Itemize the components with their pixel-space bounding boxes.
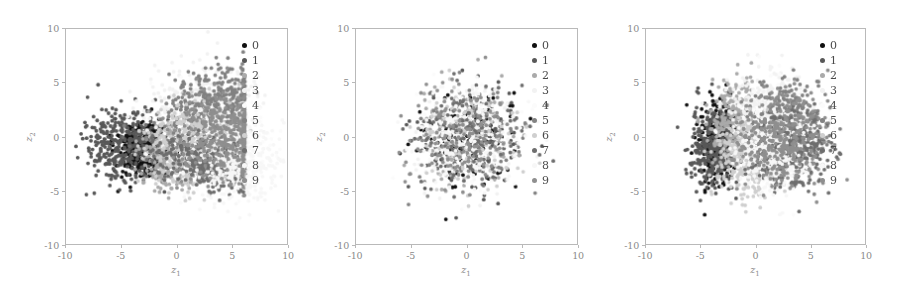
x-tickmark (355, 245, 356, 248)
legend-item-5[interactable]: 5 (820, 113, 837, 128)
y-tick-label: 5 (323, 77, 349, 88)
legend-item-5[interactable]: 5 (242, 113, 259, 128)
x-axis-label-sub: 1 (176, 270, 180, 278)
legend-item-2[interactable]: 2 (820, 68, 837, 83)
legend-item-0[interactable]: 0 (242, 38, 259, 53)
x-tickmark (522, 245, 523, 248)
x-tickmark (65, 245, 66, 248)
legend-item-4[interactable]: 4 (820, 98, 837, 113)
legend-item-6[interactable]: 6 (242, 128, 259, 143)
legend-item-4[interactable]: 4 (532, 98, 549, 113)
legend-label: 6 (830, 130, 837, 141)
legend-item-0[interactable]: 0 (532, 38, 549, 53)
x-tick-label: 10 (282, 250, 294, 261)
y-tick-label: 5 (33, 77, 59, 88)
y-tick-label: -5 (323, 185, 349, 196)
legend-label: 4 (830, 100, 837, 111)
y-axis-label-text: z (603, 136, 614, 141)
legend-marker-icon (242, 133, 247, 138)
legend-marker-icon (532, 103, 537, 108)
legend-marker-icon (820, 103, 825, 108)
x-tick-label: -5 (116, 250, 125, 261)
legend-label: 2 (542, 70, 549, 81)
x-tick-label: -5 (406, 250, 415, 261)
x-tickmark (288, 245, 289, 248)
legend-marker-icon (242, 88, 247, 93)
y-axis-label: z2 (313, 132, 327, 141)
legend-label: 1 (542, 55, 549, 66)
y-tickmark (62, 245, 65, 246)
legend-item-8[interactable]: 8 (242, 158, 259, 173)
x-tickmark (700, 245, 701, 248)
y-tickmark (642, 137, 645, 138)
legend-item-8[interactable]: 8 (820, 158, 837, 173)
legend-item-3[interactable]: 3 (532, 83, 549, 98)
legend-label: 3 (542, 85, 549, 96)
legend-item-3[interactable]: 3 (242, 83, 259, 98)
y-tick-label: -5 (613, 185, 639, 196)
x-tickmark (411, 245, 412, 248)
y-tickmark (62, 191, 65, 192)
legend-item-6[interactable]: 6 (532, 128, 549, 143)
x-tickmark (121, 245, 122, 248)
y-tickmark (352, 28, 355, 29)
legend-marker-icon (532, 73, 537, 78)
y-tickmark (352, 137, 355, 138)
legend-label: 6 (252, 130, 259, 141)
x-tick-label: 0 (464, 250, 470, 261)
legend-marker-icon (532, 88, 537, 93)
legend-label: 5 (252, 115, 259, 126)
legend-item-7[interactable]: 7 (242, 143, 259, 158)
legend-marker-icon (820, 118, 825, 123)
x-tickmark (467, 245, 468, 248)
legend-item-1[interactable]: 1 (242, 53, 259, 68)
y-tick-label: 5 (613, 77, 639, 88)
x-tick-label: 0 (174, 250, 180, 261)
x-tick-label: -10 (638, 250, 653, 261)
legend-item-3[interactable]: 3 (820, 83, 837, 98)
legend-item-2[interactable]: 2 (242, 68, 259, 83)
latent-space-scatter-figure: -10-505101050-5-10z1z20123456789-10-5051… (0, 0, 902, 297)
legend-marker-icon (820, 178, 825, 183)
y-tick-label: 10 (33, 23, 59, 34)
legend-item-9[interactable]: 9 (820, 173, 837, 188)
legend-marker-icon (820, 133, 825, 138)
x-tickmark (866, 245, 867, 248)
y-tick-label: 10 (613, 23, 639, 34)
y-tick-label: -10 (323, 240, 349, 251)
legend-item-4[interactable]: 4 (242, 98, 259, 113)
legend-1: 0123456789 (242, 38, 259, 188)
legend-label: 1 (252, 55, 259, 66)
y-tick-label: -10 (613, 240, 639, 251)
legend-item-7[interactable]: 7 (532, 143, 549, 158)
legend-label: 5 (830, 115, 837, 126)
y-tickmark (62, 137, 65, 138)
legend-item-1[interactable]: 1 (820, 53, 837, 68)
legend-item-2[interactable]: 2 (532, 68, 549, 83)
x-tick-label: 5 (808, 250, 814, 261)
legend-item-8[interactable]: 8 (532, 158, 549, 173)
y-axis-label-sub: 2 (609, 132, 617, 136)
x-axis-label: z1 (171, 264, 180, 278)
y-axis-label-text: z (23, 136, 34, 141)
legend-item-6[interactable]: 6 (820, 128, 837, 143)
legend-marker-icon (242, 58, 247, 63)
legend-label: 3 (252, 85, 259, 96)
y-tickmark (352, 191, 355, 192)
x-tick-label: -10 (348, 250, 363, 261)
legend-marker-icon (820, 163, 825, 168)
legend-item-5[interactable]: 5 (532, 113, 549, 128)
legend-label: 7 (252, 145, 259, 156)
y-tick-label: -10 (33, 240, 59, 251)
legend-marker-icon (820, 43, 825, 48)
legend-label: 4 (252, 100, 259, 111)
y-axis-label-text: z (313, 136, 324, 141)
y-axis-label-sub: 2 (29, 132, 37, 136)
legend-item-7[interactable]: 7 (820, 143, 837, 158)
legend-item-9[interactable]: 9 (242, 173, 259, 188)
legend-item-9[interactable]: 9 (532, 173, 549, 188)
legend-label: 2 (830, 70, 837, 81)
legend-marker-icon (820, 73, 825, 78)
legend-item-0[interactable]: 0 (820, 38, 837, 53)
legend-item-1[interactable]: 1 (532, 53, 549, 68)
